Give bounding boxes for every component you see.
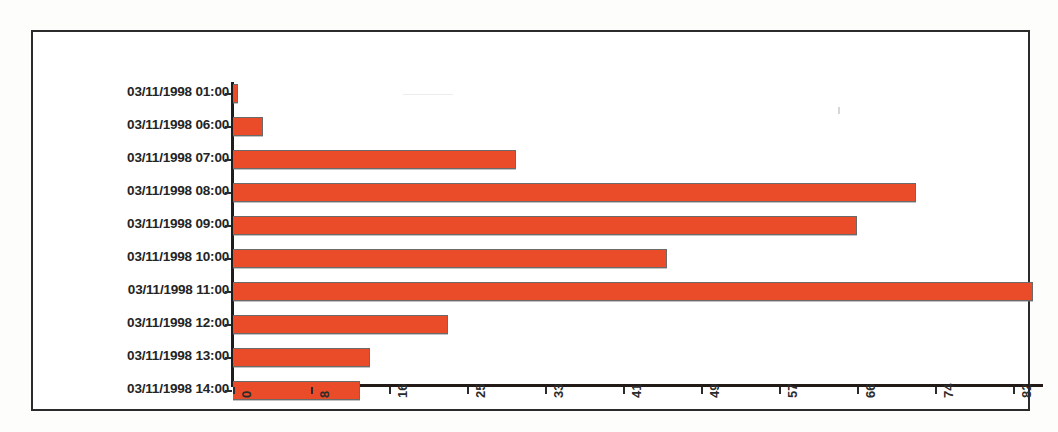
bar-row xyxy=(233,249,667,268)
y-tick-label: 03/11/1998 11:00 xyxy=(69,282,229,297)
x-tick-mark xyxy=(311,387,313,394)
x-tick-mark xyxy=(623,387,625,394)
x-tick-label: 57 xyxy=(785,384,800,398)
x-tick-label: 25 xyxy=(473,384,488,398)
x-tick-label: 49 xyxy=(707,384,722,398)
x-tick-label: 66 xyxy=(863,384,878,398)
y-tick-label: 03/11/1998 13:00 xyxy=(69,348,229,363)
x-tick-mark xyxy=(935,387,937,394)
y-tick-label: 03/11/1998 10:00 xyxy=(69,249,229,264)
chart-outer-frame: 03/11/1998 01:00 03/11/1998 06:00 03/11/… xyxy=(31,30,1030,411)
bar-7[interactable] xyxy=(233,315,448,334)
bar-1[interactable] xyxy=(233,117,263,136)
bar-8[interactable] xyxy=(233,348,370,367)
x-tick-mark xyxy=(389,387,391,394)
x-tick-mark xyxy=(701,387,703,394)
bar-row xyxy=(233,282,1033,301)
y-tick-label: 03/11/1998 14:00 xyxy=(69,381,229,396)
x-tick-label: 33 xyxy=(551,384,566,398)
bar-3[interactable] xyxy=(233,183,916,202)
y-tick-label: 03/11/1998 01:00 xyxy=(69,84,229,99)
x-tick-mark xyxy=(857,387,859,394)
bar-6[interactable] xyxy=(233,282,1033,301)
plot-area xyxy=(233,84,1043,384)
y-tick-label: 03/11/1998 07:00 xyxy=(69,150,229,165)
bar-row xyxy=(233,315,448,334)
bar-row xyxy=(233,348,370,367)
bar-row xyxy=(233,216,857,235)
bar-4[interactable] xyxy=(233,216,857,235)
y-tick-label: 03/11/1998 09:00 xyxy=(69,216,229,231)
screenshot-page: 03/11/1998 01:00 03/11/1998 06:00 03/11/… xyxy=(0,0,1058,432)
x-tick-mark xyxy=(233,387,235,394)
x-tick-label: 41 xyxy=(629,384,644,398)
x-tick-mark xyxy=(545,387,547,394)
bar-5[interactable] xyxy=(233,249,667,268)
x-tick-mark xyxy=(779,387,781,394)
bar-row xyxy=(233,183,916,202)
y-tick-label: 03/11/1998 12:00 xyxy=(69,315,229,330)
bar-2[interactable] xyxy=(233,150,516,169)
x-tick-label: 8 xyxy=(317,391,332,398)
x-tick-label: 82 xyxy=(1019,384,1034,398)
x-tick-label: 0 xyxy=(239,391,254,398)
bar-0[interactable] xyxy=(233,84,238,103)
bar-row xyxy=(233,150,516,169)
x-tick-label: 16 xyxy=(395,384,410,398)
y-tick-mark xyxy=(225,390,232,392)
y-axis-category-labels: 03/11/1998 01:00 03/11/1998 06:00 03/11/… xyxy=(61,84,229,384)
bar-row xyxy=(233,84,238,103)
bar-row xyxy=(233,117,263,136)
y-tick-label: 03/11/1998 06:00 xyxy=(69,117,229,132)
x-tick-mark xyxy=(467,387,469,394)
y-tick-label: 03/11/1998 08:00 xyxy=(69,183,229,198)
x-tick-label: 74 xyxy=(941,384,956,398)
x-tick-mark xyxy=(1013,387,1015,394)
